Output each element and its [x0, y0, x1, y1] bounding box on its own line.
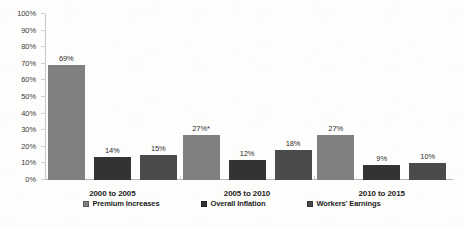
- bar-value-label: 9%: [376, 154, 387, 163]
- bar-value-label: 27%: [328, 124, 343, 133]
- bar-value-label: 27%*: [192, 124, 210, 133]
- y-axis-tick-label: 50%: [21, 92, 36, 102]
- chart-legend: Premium IncreasesOverall InflationWorker…: [0, 199, 464, 208]
- bar[interactable]: [363, 165, 400, 180]
- y-axis-tick: 60%: [0, 75, 45, 85]
- y-axis-tick: 80%: [0, 42, 45, 52]
- category-axis-label: 2010 to 2015: [314, 189, 449, 198]
- bar-slot: 10%: [409, 14, 446, 180]
- y-axis-tick-label: 0%: [25, 175, 36, 185]
- y-axis-tick-label: 90%: [21, 26, 36, 36]
- bar-slot: 18%: [275, 14, 312, 180]
- y-axis-tick-label: 100%: [17, 9, 36, 19]
- plot-area: 100%90%80%70%60%50%40%30%20%10%0% 69%14%…: [45, 14, 449, 180]
- legend-swatch-icon: [307, 201, 313, 207]
- y-axis-tick-label: 70%: [21, 59, 36, 69]
- bar[interactable]: [140, 155, 177, 180]
- legend-item[interactable]: Premium Increases: [83, 199, 159, 208]
- y-axis-tick: 30%: [0, 125, 45, 135]
- bar-slot: 69%: [48, 14, 85, 180]
- bar-slot: 27%: [317, 14, 354, 180]
- y-axis-tick: 70%: [0, 59, 45, 69]
- bar-value-label: 18%: [286, 139, 301, 148]
- bar-group-bars: 27%*12%18%: [180, 14, 315, 180]
- y-axis-tick: 100%: [0, 9, 45, 19]
- bar-slot: 9%: [363, 14, 400, 180]
- bar-value-label: 14%: [105, 146, 120, 155]
- legend-item[interactable]: Overall Inflation: [201, 199, 265, 208]
- bar[interactable]: [409, 163, 446, 180]
- y-axis-tick-label: 40%: [21, 109, 36, 119]
- legend-swatch-icon: [201, 201, 207, 207]
- legend-item-label: Premium Increases: [92, 199, 159, 208]
- bar-chart: 100%90%80%70%60%50%40%30%20%10%0% 69%14%…: [0, 0, 464, 229]
- y-axis-tick: 0%: [0, 175, 45, 185]
- bar[interactable]: [275, 150, 312, 180]
- category-axis-label: 2005 to 2010: [180, 189, 315, 198]
- y-axis-tick: 90%: [0, 26, 45, 36]
- bar[interactable]: [229, 160, 266, 180]
- y-axis-tick-label: 20%: [21, 142, 36, 152]
- legend-item-label: Workers' Earnings: [316, 199, 380, 208]
- bar-value-label: 12%: [240, 149, 255, 158]
- y-axis-tick-label: 10%: [21, 158, 36, 168]
- bar-group: 27%9%10%2010 to 2015: [314, 14, 449, 180]
- legend-swatch-icon: [83, 201, 89, 207]
- bar-value-label: 15%: [151, 144, 166, 153]
- bar-slot: 12%: [229, 14, 266, 180]
- y-axis-tick-label: 60%: [21, 75, 36, 85]
- y-axis-tick: 50%: [0, 92, 45, 102]
- y-axis-tick: 40%: [0, 109, 45, 119]
- bar[interactable]: [183, 135, 220, 180]
- bar-slot: 14%: [94, 14, 131, 180]
- bar-groups: 69%14%15%2000 to 200527%*12%18%2005 to 2…: [45, 14, 449, 180]
- bar-slot: 15%: [140, 14, 177, 180]
- bar-value-label: 10%: [420, 152, 435, 161]
- y-axis-tick: 10%: [0, 158, 45, 168]
- bar-value-label: 69%: [59, 54, 74, 63]
- bar-group-bars: 69%14%15%: [45, 14, 180, 180]
- y-axis-tick-label: 80%: [21, 42, 36, 52]
- category-axis-label: 2000 to 2005: [45, 189, 180, 198]
- bar[interactable]: [94, 157, 131, 180]
- y-axis-tick-label: 30%: [21, 125, 36, 135]
- bar-group-bars: 27%9%10%: [314, 14, 449, 180]
- bar-group: 27%*12%18%2005 to 2010: [180, 14, 315, 180]
- bar[interactable]: [317, 135, 354, 180]
- bar-group: 69%14%15%2000 to 2005: [45, 14, 180, 180]
- y-axis-tick: 20%: [0, 142, 45, 152]
- legend-item-label: Overall Inflation: [210, 199, 265, 208]
- bar[interactable]: [48, 65, 85, 180]
- legend-item[interactable]: Workers' Earnings: [307, 199, 380, 208]
- bar-slot: 27%*: [183, 14, 220, 180]
